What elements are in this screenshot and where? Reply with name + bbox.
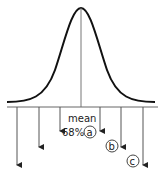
normal-distribution-diagram: mean 68% a b c: [0, 0, 167, 170]
marker-c-label: c: [130, 156, 136, 167]
marker-a-label: a: [87, 127, 93, 138]
percent-label: 68%: [62, 127, 84, 138]
mean-label: mean: [68, 113, 96, 124]
marker-b-label: b: [109, 141, 115, 152]
